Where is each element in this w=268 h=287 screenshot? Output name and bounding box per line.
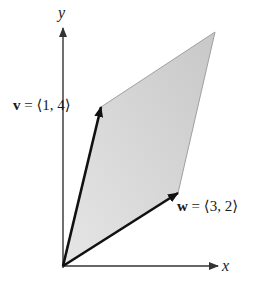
vector-w-label: w = ⟨3, 2⟩ — [177, 198, 238, 214]
vector-v-components: = ⟨1, 4⟩ — [21, 97, 71, 113]
parallelogram-diagram: y x v = ⟨1, 4⟩ w = ⟨3, 2⟩ — [0, 0, 268, 287]
vector-w-components: = ⟨3, 2⟩ — [188, 198, 238, 214]
vector-v-label: v = ⟨1, 4⟩ — [13, 97, 71, 113]
vector-w-symbol: w — [177, 198, 188, 214]
parallelogram-region — [63, 32, 215, 266]
y-axis-label: y — [56, 4, 66, 22]
x-axis-label: x — [221, 257, 229, 274]
